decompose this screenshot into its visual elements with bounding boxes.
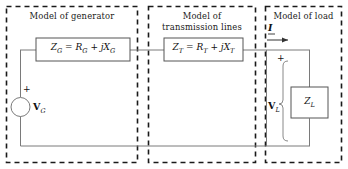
zt-eq: = R	[183, 42, 203, 52]
panel-title-load: Model of load	[268, 11, 339, 22]
transmission-impedance-label: ZT = RT + jXT	[164, 42, 243, 55]
vl-sub: L	[275, 106, 279, 114]
panel-title-transmission: Model of transmission lines	[152, 11, 252, 32]
zt-sub3: T	[230, 47, 234, 55]
voltage-source-label: VG	[33, 101, 45, 115]
circuit-diagram: Model of generator Model of transmission…	[0, 0, 348, 169]
voltage-source-symbol	[11, 98, 30, 117]
load-voltage-polarity: +	[277, 53, 285, 63]
current-arrow-head	[282, 37, 288, 42]
zg-plus: + j	[88, 42, 104, 52]
generator-impedance-label: ZG = RG + jXG	[36, 42, 130, 55]
zt-plus: + j	[208, 42, 224, 52]
voltage-source-polarity: +	[23, 84, 31, 94]
panel-border-load	[266, 7, 342, 163]
load-voltage-label: VL	[268, 100, 280, 114]
load-impedance-label: ZL	[291, 96, 328, 109]
zl-sub: L	[310, 101, 314, 109]
zg-sub3: G	[110, 47, 115, 55]
vg-sub: G	[40, 107, 45, 115]
zg-eq: = R	[62, 42, 82, 52]
current-label: I	[268, 22, 272, 33]
panel-title-generator: Model of generator	[14, 11, 130, 22]
load-voltage-bracket	[279, 61, 288, 141]
